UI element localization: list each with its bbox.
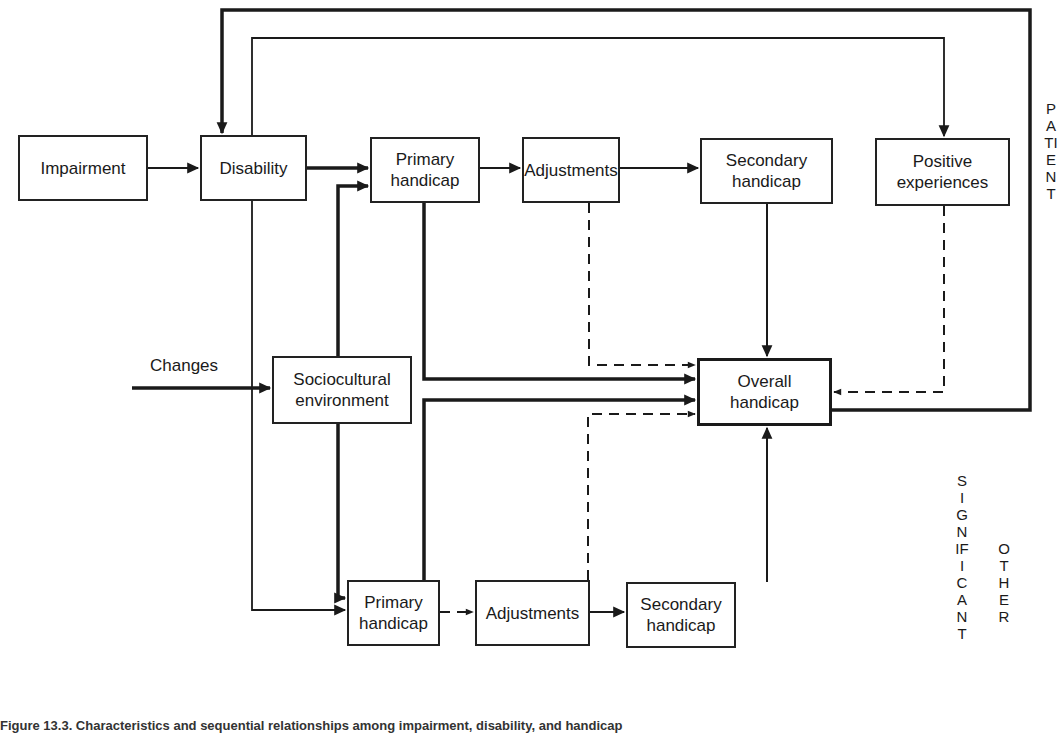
primary-handicap-patient-line1: Primary	[396, 149, 455, 170]
adjustments-patient-label: Adjustments	[524, 160, 618, 181]
significant-side-label: SIGNIFICANT	[955, 472, 969, 642]
secondary-handicap-patient-line2: handicap	[732, 171, 801, 192]
primary-handicap-patient-box: Primary handicap	[370, 137, 480, 203]
figure-caption: Figure 13.3. Characteristics and sequent…	[0, 718, 622, 733]
sociocultural-environment-box: Sociocultural environment	[272, 356, 412, 424]
changes-label: Changes	[150, 356, 218, 376]
primary-handicap-other-line1: Primary	[364, 592, 423, 613]
sociocultural-line2: environment	[295, 390, 389, 411]
adjustments-patient-box: Adjustments	[522, 137, 620, 203]
secondary-handicap-patient-box: Secondary handicap	[700, 138, 833, 204]
overall-handicap-line2: handicap	[730, 392, 799, 413]
impairment-box: Impairment	[18, 135, 148, 201]
disability-box: Disability	[200, 135, 307, 201]
overall-handicap-box: Overall handicap	[697, 358, 832, 426]
primary-handicap-other-line2: handicap	[359, 613, 428, 634]
secondary-handicap-other-line1: Secondary	[640, 594, 721, 615]
adjustments-other-box: Adjustments	[475, 580, 590, 646]
primary-handicap-other-box: Primary handicap	[347, 580, 440, 646]
sociocultural-line1: Sociocultural	[293, 369, 390, 390]
adjustments-other-label: Adjustments	[486, 603, 580, 624]
overall-handicap-line1: Overall	[738, 371, 792, 392]
disability-label: Disability	[219, 158, 287, 179]
patient-side-label: PATIENT	[1044, 100, 1058, 202]
secondary-handicap-patient-line1: Secondary	[726, 150, 807, 171]
secondary-handicap-other-box: Secondary handicap	[626, 582, 736, 648]
other-side-label: OTHER	[997, 540, 1011, 625]
positive-experiences-box: Positive experiences	[875, 138, 1010, 206]
primary-handicap-patient-line2: handicap	[390, 170, 459, 191]
secondary-handicap-other-line2: handicap	[646, 615, 715, 636]
impairment-label: Impairment	[40, 158, 125, 179]
positive-experiences-line2: experiences	[897, 172, 989, 193]
positive-experiences-line1: Positive	[913, 151, 973, 172]
